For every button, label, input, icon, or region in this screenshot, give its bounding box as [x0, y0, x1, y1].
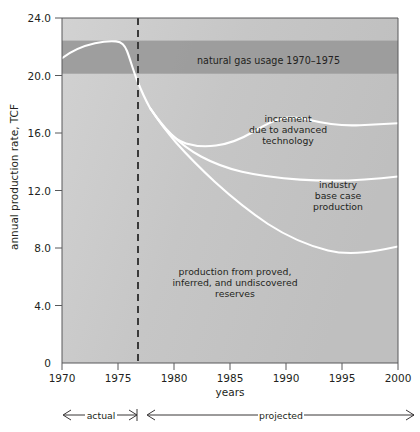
y-tick-label-20: 20.0	[28, 70, 51, 82]
y-tick-label-8: 8.0	[34, 242, 51, 254]
svg-text:production: production	[313, 201, 363, 212]
period-marker-actual: actual	[63, 409, 137, 421]
svg-text:increment: increment	[264, 113, 312, 124]
x-tick-label-2000: 2000	[385, 372, 412, 384]
y-tick-label-24: 24.0	[28, 12, 51, 24]
svg-text:reserves: reserves	[215, 288, 255, 299]
y-tick-label-12: 12.0	[28, 185, 51, 197]
x-tick-label-1995: 1995	[329, 372, 356, 384]
x-axis-tick-labels: 1970 1975 1980 1985 1990 1995 2000	[49, 372, 412, 384]
y-tick-label-4: 4.0	[34, 300, 51, 312]
x-tick-label-1980: 1980	[161, 372, 188, 384]
y-axis-tick-labels: 24.0 20.0 16.0 12.0 8.0 4.0 0	[28, 12, 51, 369]
svg-text:inferred, and undiscovered: inferred, and undiscovered	[172, 277, 297, 288]
gas-production-chart: natural gas usage 1970–1975 24.0 20.0	[0, 0, 420, 432]
x-tick-label-1990: 1990	[273, 372, 300, 384]
y-tick-label-0: 0	[44, 357, 51, 369]
svg-text:technology: technology	[262, 135, 314, 146]
x-axis-title: years	[216, 386, 245, 398]
y-axis-ticks	[55, 18, 62, 306]
period-label-actual: actual	[87, 410, 116, 421]
x-tick-label-1970: 1970	[49, 372, 76, 384]
chart-svg: natural gas usage 1970–1975 24.0 20.0	[0, 0, 420, 432]
base-case-label: industry base case production	[313, 179, 363, 212]
svg-text:due to advanced: due to advanced	[249, 124, 327, 135]
x-axis-ticks	[62, 363, 398, 370]
y-axis-title: annual production rate, TCF	[8, 104, 20, 250]
period-marker-projected: projected	[147, 409, 414, 421]
y-tick-label-16: 16.0	[28, 127, 51, 139]
svg-text:production from proved,: production from proved,	[179, 266, 292, 277]
svg-text:base case: base case	[315, 190, 362, 201]
x-tick-label-1985: 1985	[217, 372, 244, 384]
svg-text:industry: industry	[319, 179, 358, 190]
x-tick-label-1975: 1975	[105, 372, 132, 384]
natural-gas-usage-band-label: natural gas usage 1970–1975	[197, 55, 340, 66]
period-label-projected: projected	[259, 410, 303, 421]
